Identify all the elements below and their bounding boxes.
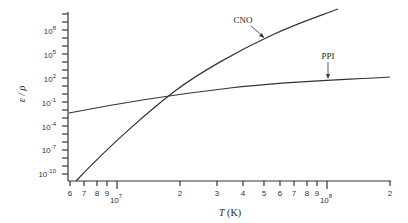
x-ticks	[70, 181, 390, 189]
chart: 108 105 102 10-1 10-4 10-7 10-10 ε / ρ 6…	[0, 0, 408, 223]
x-tick-label: 7	[82, 189, 87, 198]
x-axis-label: T (K)	[219, 207, 241, 219]
x-major-label-1e7: 107	[110, 193, 123, 205]
y-tick-label: 10-4	[42, 121, 57, 132]
cno-curve	[76, 9, 338, 181]
x-tick-labels: 6 7 8 9 2 3 4 5 6 7 8 9 2 107 108	[68, 189, 393, 205]
x-major-label-1e8: 108	[320, 193, 333, 205]
x-tick-label: 5	[262, 189, 267, 198]
x-tick-label: 7	[292, 189, 297, 198]
y-tick-label: 102	[44, 73, 57, 84]
x-tick-label: 4	[241, 189, 246, 198]
x-tick-label: 8	[95, 189, 100, 198]
x-tick-label: 2	[178, 189, 183, 198]
y-tick-label: 10-7	[42, 144, 57, 155]
x-tick-label: 6	[278, 189, 283, 198]
x-tick-label: 8	[305, 189, 310, 198]
y-tick-label: 10-1	[42, 97, 57, 108]
x-tick-label: 3	[215, 189, 220, 198]
y-tick-label: 10-10	[38, 168, 56, 179]
y-ticks	[62, 14, 68, 174]
x-tick-label: 6	[68, 189, 73, 198]
ppi-label: PPI	[321, 51, 334, 61]
y-tick-labels: 108 105 102 10-1 10-4 10-7 10-10	[38, 25, 56, 179]
cno-label: CNO	[233, 15, 253, 25]
y-axis-label: ε / ρ	[16, 86, 27, 103]
ppi-arrowhead-icon	[326, 74, 330, 79]
x-tick-label: 2	[388, 189, 393, 198]
y-tick-label: 108	[44, 25, 57, 36]
y-tick-label: 105	[44, 49, 57, 60]
ppi-curve	[69, 77, 390, 113]
